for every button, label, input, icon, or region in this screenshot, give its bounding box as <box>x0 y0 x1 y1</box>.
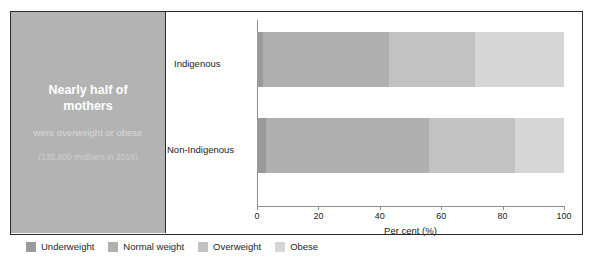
bar-segment-normal-weight <box>263 32 389 87</box>
bar-segment-obese <box>475 32 564 87</box>
legend-swatch-icon <box>275 242 285 252</box>
bar-segment-overweight <box>389 32 475 87</box>
x-tick <box>503 206 504 210</box>
x-tick <box>318 206 319 210</box>
x-tick-label: 20 <box>313 211 323 221</box>
x-tick <box>441 206 442 210</box>
bar-segment-underweight <box>257 118 266 173</box>
legend-item[interactable]: Underweight <box>26 241 94 252</box>
callout-subline: were overweight or obese <box>18 126 158 139</box>
figure-frame: Nearly half of mothers were overweight o… <box>10 11 583 235</box>
figure-root: Nearly half of mothers were overweight o… <box>0 0 595 266</box>
legend-label: Overweight <box>213 241 261 252</box>
category-label-indigenous: Indigenous <box>174 58 220 69</box>
x-axis-title: Per cent (%) <box>257 225 564 236</box>
bar-indigenous <box>257 32 564 87</box>
legend-label: Normal weight <box>123 241 184 252</box>
category-label-non-indigenous: Non-Indigenous <box>167 144 234 155</box>
bar-non-indigenous <box>257 118 564 173</box>
x-tick-label: 0 <box>254 211 259 221</box>
x-axis-line <box>257 206 564 207</box>
legend-item[interactable]: Obese <box>275 241 318 252</box>
chart-legend: UnderweightNormal weightOverweightObese <box>26 241 318 252</box>
bar-segment-obese <box>515 118 564 173</box>
bar-segment-overweight <box>429 118 515 173</box>
legend-label: Obese <box>290 241 318 252</box>
plot-region: 020406080100 Per cent (%) <box>257 20 564 206</box>
legend-swatch-icon <box>108 242 118 252</box>
legend-item[interactable]: Overweight <box>198 241 261 252</box>
callout-panel: Nearly half of mothers were overweight o… <box>11 12 166 233</box>
x-tick <box>380 206 381 210</box>
bar-segment-normal-weight <box>266 118 429 173</box>
callout-note: (135,809 mothers in 2018) <box>18 151 158 163</box>
x-tick <box>564 206 565 210</box>
legend-swatch-icon <box>198 242 208 252</box>
x-tick-label: 80 <box>498 211 508 221</box>
legend-item[interactable]: Normal weight <box>108 241 184 252</box>
x-tick-label: 100 <box>556 211 571 221</box>
legend-label: Underweight <box>41 241 94 252</box>
x-tick-label: 60 <box>436 211 446 221</box>
legend-swatch-icon <box>26 242 36 252</box>
callout-headline: Nearly half of mothers <box>28 82 148 114</box>
chart-area: Indigenous Non-Indigenous 020406080100 P… <box>166 12 582 234</box>
x-tick-label: 40 <box>375 211 385 221</box>
x-tick <box>257 206 258 210</box>
